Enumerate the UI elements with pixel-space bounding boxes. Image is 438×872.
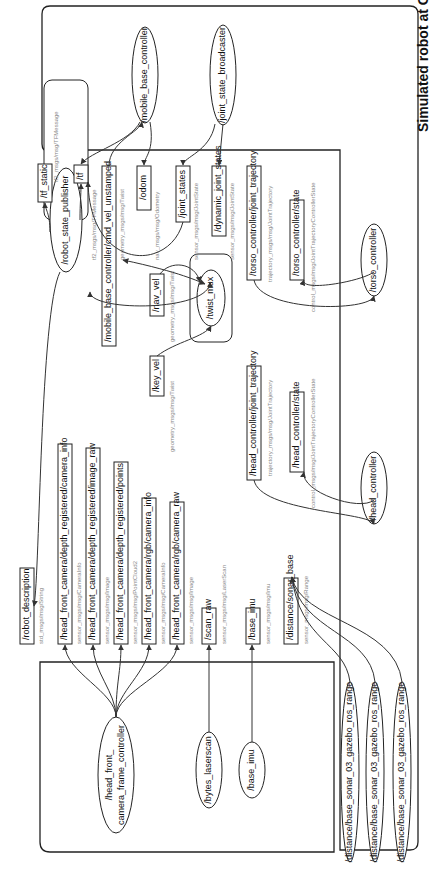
svg-text:/base_imu: /base_imu [247, 598, 257, 640]
svg-text:/odom: /odom [138, 175, 148, 200]
node-head-controller[interactable]: /head_controller [361, 452, 387, 524]
svg-text:/head_front_camera/rgb/camera_: /head_front_camera/rgb/camera_info [143, 492, 153, 640]
topic-cmd-vel-unstamped[interactable]: /mobile_base_controller/cmd_vel_unstampe… [102, 161, 125, 346]
node-head-front-camera-frame-controller[interactable]: /head_front_ camera_frame_controller [98, 717, 134, 833]
node-base-imu[interactable]: /base_imu [239, 742, 265, 798]
svg-text:/distance/base_sonar_03_gazebo: /distance/base_sonar_03_gazebo_ros_range [396, 682, 406, 863]
svg-text:/head_front_camera/rgb/camera_: /head_front_camera/rgb/camera_raw [171, 491, 181, 640]
svg-text:/dynamic_joint_states: /dynamic_joint_states [213, 145, 223, 232]
svg-text:/head_front_camera/depth_regis: /head_front_camera/depth_registered/came… [59, 437, 69, 640]
topic-depth-camera-info[interactable]: /head_front_camera/depth_registered/came… [58, 437, 82, 644]
svg-text:/head_controller/joint_traject: /head_controller/joint_trajectory [248, 350, 258, 476]
svg-text:/key_vel: /key_vel [151, 359, 161, 392]
svg-text:/torso_controller: /torso_controller [368, 228, 378, 293]
node-torso-controller[interactable]: /torso_controller [361, 224, 387, 296]
svg-text:/torso_controller/joint_trajec: /torso_controller/joint_trajectory [248, 150, 258, 276]
topic-rgb-camera-info[interactable]: /head_front_camera/rgb/camera_info senso… [142, 492, 166, 644]
svg-text:/robot_description: /robot_description [21, 568, 31, 640]
svg-text:/torso_controller/state: /torso_controller/state [291, 189, 301, 276]
svg-text:sensor_msgs/msg/JointState: sensor_msgs/msg/JointState [193, 182, 199, 260]
topic-dynamic-joint-states[interactable]: /dynamic_joint_states sensor_msgs/msg/Jo… [212, 145, 235, 260]
topic-robot-description[interactable]: /robot_description std_msgs/msg/String [20, 568, 44, 644]
node-sonar-range-3[interactable]: /distance/base_sonar_03_gazebo_ros_range [393, 682, 411, 863]
gazebo-cluster-outline-left [40, 662, 334, 852]
node-twist-mux[interactable]: /twist_mux [190, 254, 232, 342]
node-sonar-range-1[interactable]: /distance/base_sonar_03_gazebo_ros_range [341, 682, 359, 863]
svg-text:geometry_msgs/msg/Twist: geometry_msgs/msg/Twist [169, 381, 175, 452]
svg-text:/distance/sonar_base: /distance/sonar_base [285, 554, 295, 640]
node-joint-state-broadcaster[interactable]: /joint_state_broadcaster [210, 25, 236, 125]
svg-text:sensor_msgs/msg/Imu: sensor_msgs/msg/Imu [265, 584, 271, 644]
svg-text:control_msgs/msg/JointTrajecto: control_msgs/msg/JointTrajectoryControll… [310, 182, 316, 312]
svg-text:sensor_msgs/msg/Image: sensor_msgs/msg/Image [104, 576, 110, 644]
svg-text:geometry_msgs/msg/Twist: geometry_msgs/msg/Twist [119, 189, 125, 260]
svg-text:trajectory_msgs/msg/JointTraje: trajectory_msgs/msg/JointTrajectory [267, 380, 273, 476]
topic-odom[interactable]: /odom nav_msgs/msg/Odometry [137, 166, 160, 260]
svg-text:/head_front_camera/depth_regis: /head_front_camera/depth_registered/poin… [115, 462, 125, 640]
svg-text:/distance/base_sonar_03_gazebo: /distance/base_sonar_03_gazebo_ros_range [344, 682, 354, 863]
svg-text:/head_front_: /head_front_ [104, 749, 114, 801]
svg-text:sensor_msgs/msg/CameraInfo: sensor_msgs/msg/CameraInfo [76, 562, 82, 644]
node-bytes-laserscan[interactable]: /bytes_laserscan [196, 732, 222, 808]
svg-text:sensor_msgs/msg/Image: sensor_msgs/msg/Image [188, 576, 194, 644]
svg-text:nav_msgs/msg/Odometry: nav_msgs/msg/Odometry [154, 192, 160, 260]
svg-text:/mobile_base_controller: /mobile_base_controller [139, 27, 149, 123]
svg-text:control_msgs/msg/JointTrajecto: control_msgs/msg/JointTrajectoryControll… [310, 378, 316, 508]
svg-text:/scan_raw: /scan_raw [203, 598, 213, 640]
topic-depth-image-raw[interactable]: /head_front_camera/depth_registered/imag… [86, 442, 110, 644]
svg-text:/mobile_base_controller/cmd_ve: /mobile_base_controller/cmd_vel_unstampe… [103, 161, 113, 342]
svg-text:/distance/base_sonar_03_gazebo: /distance/base_sonar_03_gazebo_ros_range [369, 682, 379, 863]
topic-scan-raw[interactable]: /scan_raw sensor_msgs/msg/LaserScan [202, 565, 227, 644]
svg-text:/base_imu: /base_imu [246, 749, 256, 791]
ros-graph-diagram: Simulated robot at Gazebo /mobile_base_c… [0, 0, 438, 872]
svg-text:tf2_msgs/msg/TFMessage: tf2_msgs/msg/TFMessage [53, 111, 59, 182]
svg-text:sensor_msgs/msg/LaserScan: sensor_msgs/msg/LaserScan [221, 565, 227, 644]
cluster-title: Simulated robot at Gazebo [415, 0, 431, 132]
svg-text:sensor_msgs/msg/CameraInfo: sensor_msgs/msg/CameraInfo [160, 562, 166, 644]
svg-text:/tf_static: /tf_static [39, 164, 49, 198]
topic-joint-states[interactable]: /joint_states sensor_msgs/msg/JointState [176, 166, 199, 260]
svg-text:/joint_state_broadcaster: /joint_state_broadcaster [217, 27, 227, 123]
svg-text:/head_controller: /head_controller [368, 456, 378, 521]
topic-head-joint-trajectory[interactable]: /head_controller/joint_trajectory trajec… [247, 350, 273, 480]
svg-text:/head_controller/state: /head_controller/state [291, 381, 301, 468]
topic-base-imu[interactable]: /base_imu sensor_msgs/msg/Imu [246, 584, 271, 644]
topic-head-state[interactable]: /head_controller/state control_msgs/msg/… [290, 378, 316, 508]
topic-torso-state[interactable]: /torso_controller/state control_msgs/msg… [290, 182, 316, 312]
svg-text:std_msgs/msg/String: std_msgs/msg/String [38, 588, 44, 644]
svg-text:/bytes_laserscan: /bytes_laserscan [203, 736, 213, 804]
svg-text:geometry_msgs/msg/Twist: geometry_msgs/msg/Twist [169, 271, 175, 342]
svg-text:sensor_msgs/msg/JointState: sensor_msgs/msg/JointState [229, 182, 235, 260]
svg-text:/nav_vel: /nav_vel [151, 278, 161, 312]
svg-text:trajectory_msgs/msg/JointTraje: trajectory_msgs/msg/JointTrajectory [267, 186, 273, 282]
gazebo-cluster-outline [42, 6, 418, 850]
topic-rgb-camera-raw[interactable]: /head_front_camera/rgb/camera_raw sensor… [170, 491, 194, 644]
node-sonar-range-2[interactable]: /distance/base_sonar_03_gazebo_ros_range [366, 682, 384, 863]
node-mobile-base-controller[interactable]: /mobile_base_controller [132, 27, 158, 123]
svg-text:sensor_msgs/msg/PointCloud2: sensor_msgs/msg/PointCloud2 [132, 560, 138, 644]
topic-depth-points[interactable]: /head_front_camera/depth_registered/poin… [114, 462, 138, 644]
svg-text:/tf: /tf [75, 172, 85, 180]
topic-torso-joint-trajectory[interactable]: /torso_controller/joint_trajectory traje… [247, 150, 273, 282]
svg-text:camera_frame_controller: camera_frame_controller [116, 725, 126, 825]
svg-text:/joint_states: /joint_states [177, 169, 187, 218]
topic-key-vel[interactable]: /key_vel geometry_msgs/msg/Twist [150, 356, 175, 452]
topic-nav-vel[interactable]: /nav_vel geometry_msgs/msg/Twist [150, 271, 175, 342]
svg-text:/head_front_camera/depth_regis: /head_front_camera/depth_registered/imag… [87, 442, 97, 640]
svg-text:/robot_state_publisher: /robot_state_publisher [60, 175, 70, 264]
